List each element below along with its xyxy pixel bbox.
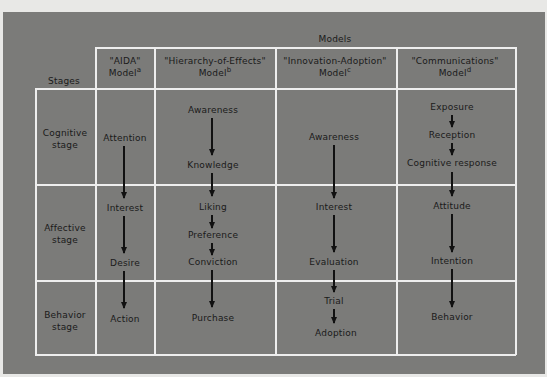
grid-line-bottom: [35, 354, 516, 356]
innovation-trial: Trial: [324, 295, 343, 307]
communications-cognitive-response: Cognitive response: [407, 157, 497, 169]
arrow-down-icon: [211, 118, 213, 155]
innovation-interest: Interest: [316, 201, 352, 213]
arrow-down-icon: [333, 309, 335, 323]
arrow-down-icon: [123, 216, 125, 253]
arrow-down-icon: [451, 115, 453, 127]
column-header-aida: "AIDA" Modela: [109, 55, 142, 79]
grid-line-hierarchy-left: [154, 47, 156, 355]
hierarchy-liking: Liking: [199, 201, 227, 213]
grid-line-communications-left: [396, 47, 398, 355]
aida-interest: Interest: [107, 202, 143, 214]
grid-line-cognitive-affective: [35, 184, 516, 186]
column-header-innovation: "Innovation-Adoption" Modelc: [283, 55, 386, 79]
arrow-down-icon: [451, 269, 453, 307]
aida-attention: Attention: [103, 132, 146, 144]
grid-line-left: [35, 88, 37, 355]
hierarchy-conviction: Conviction: [188, 256, 238, 268]
arrow-down-icon: [211, 215, 213, 228]
arrow-down-icon: [123, 271, 125, 308]
innovation-awareness: Awareness: [309, 131, 359, 143]
innovation-adoption: Adoption: [315, 327, 357, 339]
communications-attitude: Attitude: [433, 200, 471, 212]
communications-exposure: Exposure: [430, 101, 473, 113]
hierarchy-knowledge: Knowledge: [187, 159, 238, 171]
arrow-down-icon: [451, 214, 453, 252]
grid-line-innovation-left: [275, 47, 277, 355]
arrow-down-icon: [211, 270, 213, 307]
stage-label-behavior: Behaviorstage: [44, 309, 86, 333]
arrow-down-icon: [333, 215, 335, 252]
grid-line-aida-left: [95, 47, 97, 355]
arrow-down-icon: [451, 143, 453, 155]
column-header-communications: "Communications" Modeld: [411, 55, 498, 79]
grid-line-affective-behavior: [35, 280, 516, 282]
communications-reception: Reception: [429, 129, 476, 141]
stage-label-affective: Affectivestage: [44, 222, 85, 246]
stages-header: Stages: [48, 75, 80, 87]
arrow-down-icon: [333, 145, 335, 198]
arrow-down-icon: [123, 146, 125, 198]
arrow-down-icon: [451, 172, 453, 196]
communications-behavior: Behavior: [431, 311, 473, 323]
communications-intention: Intention: [431, 255, 473, 267]
innovation-evaluation: Evaluation: [309, 256, 359, 268]
arrow-down-icon: [333, 270, 335, 292]
grid-line-header-top: [95, 47, 516, 49]
grid-line-header-bottom: [35, 88, 516, 90]
arrow-down-icon: [211, 173, 213, 196]
grid-line-right: [515, 47, 517, 355]
aida-desire: Desire: [110, 257, 140, 269]
hierarchy-awareness: Awareness: [188, 104, 238, 116]
column-header-hierarchy: "Hierarchy-of-Effects" Modelb: [164, 55, 266, 79]
arrow-down-icon: [211, 243, 213, 255]
stage-label-cognitive: Cognitivestage: [43, 127, 87, 151]
hierarchy-purchase: Purchase: [192, 312, 234, 324]
aida-action: Action: [110, 313, 139, 325]
models-header: Models: [319, 33, 352, 45]
hierarchy-preference: Preference: [188, 229, 238, 241]
